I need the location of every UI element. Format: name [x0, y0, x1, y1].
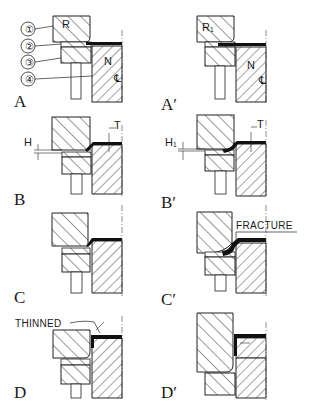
sheet [218, 43, 266, 46]
dimension-h: H₁ [165, 136, 177, 148]
part-label: N [247, 59, 255, 71]
svg-text:①: ① [25, 24, 34, 35]
die-insert [71, 63, 81, 99]
centerline-label: ℄ [113, 72, 121, 84]
callout-1: ① [21, 22, 53, 36]
tool-label: R [62, 18, 70, 30]
part-label: N [104, 55, 112, 67]
dimension-t: T [257, 118, 264, 130]
panel-b: H T B [14, 117, 122, 209]
fracture-callout: FRACTURE [236, 220, 293, 231]
panel-label-c-prime: C′ [161, 290, 176, 309]
panel-b-prime: H₁ T B′ [161, 115, 266, 212]
panel-label-a-prime: A′ [161, 95, 177, 114]
panel-c: C [14, 205, 122, 307]
panel-label-a: A [14, 92, 27, 111]
punch [53, 16, 90, 42]
panel-c-prime: FRACTURE C′ [161, 205, 297, 309]
panel-label-d-prime: D′ [161, 383, 177, 402]
dimension-t: T [114, 119, 121, 131]
dimension-h: H [24, 136, 32, 148]
panel-label-c: C [14, 288, 25, 307]
panel-label-d: D [14, 383, 26, 402]
panel-d-prime: D′ [161, 313, 266, 402]
thinned-callout: THINNED [15, 318, 62, 329]
svg-text:②: ② [25, 41, 34, 52]
panel-a: R N ℄ ① ② ③ ④ A [14, 16, 122, 111]
tool-label: R₁ [202, 21, 214, 33]
sheet [86, 42, 122, 45]
svg-text:③: ③ [25, 57, 34, 68]
svg-text:④: ④ [25, 74, 34, 85]
panel-label-b-prime: B′ [161, 193, 176, 212]
panel-d: THINNED D [14, 316, 122, 402]
diagram-canvas: R N ℄ ① ② ③ ④ A [0, 0, 312, 405]
die [61, 47, 91, 63]
panel-a-prime: R₁ N ℄ A′ [161, 16, 266, 114]
slug [236, 338, 266, 358]
callout-3: ③ [21, 55, 61, 69]
centerline-label: ℄ [258, 74, 266, 86]
panel-label-b: B [14, 190, 25, 209]
